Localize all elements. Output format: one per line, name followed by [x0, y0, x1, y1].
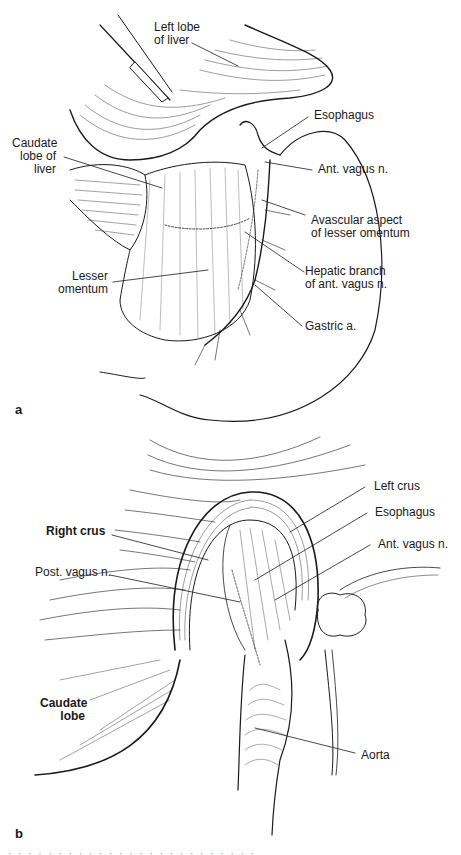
label-esophagus-a: Esophagus: [314, 109, 374, 122]
label-esophagus-b: Esophagus: [375, 506, 435, 519]
label-post-vagus: Post. vagus n.: [35, 566, 111, 579]
panel-letter-a: a: [15, 402, 22, 417]
figure-caption-cropped: · · · · · · · · · · · · · · · · · · · · …: [8, 848, 453, 855]
label-left-lobe-of-liver: Left lobe of liver: [154, 21, 200, 47]
label-avascular-aspect: Avascular aspect of lesser omentum: [311, 214, 410, 240]
label-right-crus: Right crus: [46, 525, 105, 538]
label-lesser-omentum: Lesser omentum: [58, 270, 108, 296]
label-caudate-lobe-of-liver: Caudate lobe of liver: [12, 137, 56, 176]
anatomical-illustration: [0, 0, 461, 855]
label-ant-vagus-a: Ant. vagus n.: [318, 163, 388, 176]
label-caudate-lobe-b: Caudate lobe: [40, 697, 85, 723]
label-hepatic-branch: Hepatic branch of ant. vagus n.: [305, 265, 387, 291]
panel-b-drawing: [35, 437, 440, 835]
label-ant-vagus-b: Ant. vagus n.: [378, 538, 448, 551]
label-gastric-artery: Gastric a.: [305, 320, 356, 333]
panel-letter-b: b: [15, 826, 23, 841]
label-left-crus: Left crus: [374, 480, 420, 493]
label-aorta: Aorta: [361, 749, 390, 762]
